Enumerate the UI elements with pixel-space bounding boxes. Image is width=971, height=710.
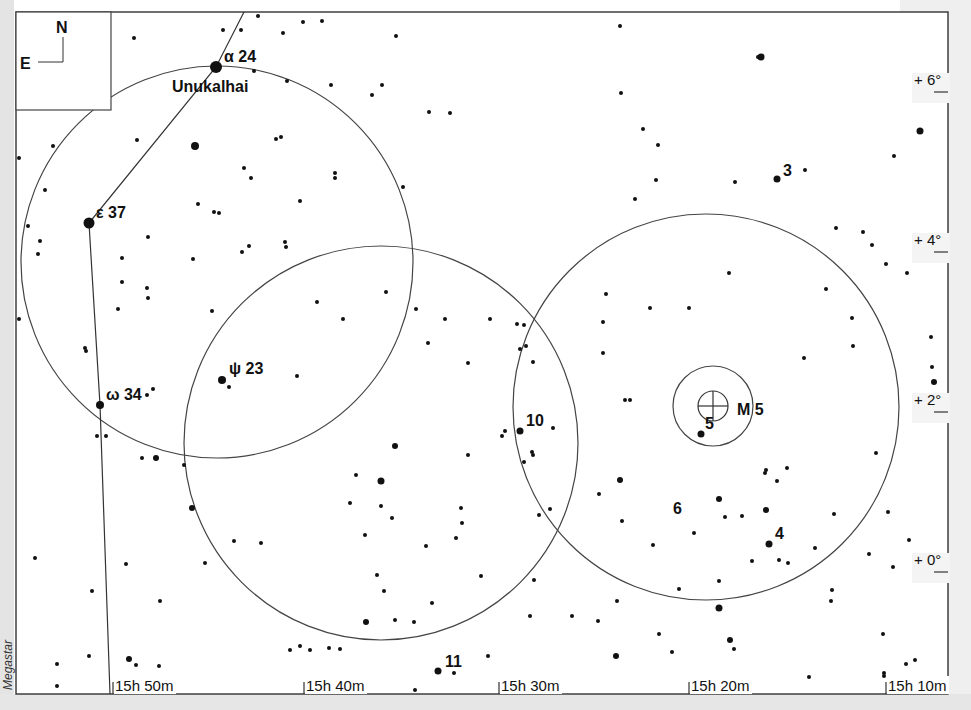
- star: [227, 385, 231, 389]
- bright-star: [917, 128, 924, 135]
- star: [466, 361, 470, 365]
- star: [651, 543, 655, 547]
- star: [830, 588, 834, 592]
- star: [151, 387, 155, 391]
- star: [279, 135, 283, 139]
- star: [256, 14, 260, 18]
- bright-star: [392, 443, 398, 449]
- star: [430, 601, 434, 605]
- star: [116, 307, 120, 311]
- compass-east: E: [20, 55, 31, 72]
- star: [83, 346, 87, 350]
- star: [95, 434, 99, 438]
- star: [320, 19, 324, 23]
- star: [26, 224, 30, 228]
- star: [140, 456, 144, 460]
- star: [413, 688, 417, 692]
- star: [252, 69, 256, 73]
- bright-star: [84, 218, 95, 229]
- star: [834, 226, 838, 230]
- bright-star: [517, 428, 524, 435]
- star-magnitude-label: 10: [526, 412, 544, 429]
- star: [338, 647, 342, 651]
- star: [570, 614, 574, 618]
- star: [134, 663, 138, 667]
- star: [212, 210, 216, 214]
- dec-tick-label: + 0°: [914, 551, 941, 568]
- bright-star: [153, 455, 159, 461]
- star: [740, 514, 744, 518]
- star: [628, 398, 632, 402]
- star: [288, 648, 292, 652]
- bright-star: [435, 668, 442, 675]
- star: [55, 662, 59, 666]
- star: [427, 110, 431, 114]
- ra-tick-label: 15h 50m: [115, 677, 173, 694]
- star: [503, 429, 507, 433]
- star: [727, 271, 731, 275]
- star: [443, 317, 447, 321]
- star: [452, 671, 456, 675]
- star: [803, 168, 807, 172]
- star: [393, 618, 397, 622]
- star: [756, 55, 760, 59]
- star: [687, 306, 691, 310]
- star: [249, 176, 253, 180]
- bright-star: [763, 507, 769, 513]
- star: [448, 111, 452, 115]
- star: [775, 479, 779, 483]
- star: [515, 322, 519, 326]
- star: [281, 31, 285, 35]
- star: [239, 28, 243, 32]
- star-magnitude-label: 5: [705, 415, 714, 432]
- bright-star: [218, 376, 226, 384]
- star-chart: M 5 α 24ε 37ω 34ψ 2331056411 N E Unukalh…: [0, 0, 971, 710]
- star: [191, 257, 195, 261]
- star: [466, 453, 470, 457]
- star: [874, 451, 878, 455]
- star: [232, 539, 236, 543]
- star: [329, 83, 333, 87]
- star: [824, 287, 828, 291]
- star: [479, 574, 483, 578]
- star: [633, 197, 637, 201]
- star: [363, 533, 367, 537]
- star: [850, 316, 854, 320]
- star: [522, 323, 526, 327]
- star: [412, 620, 416, 624]
- star: [670, 650, 674, 654]
- star: [892, 154, 896, 158]
- bright-star: [189, 505, 195, 511]
- dec-tick-label: + 4°: [914, 231, 941, 248]
- ra-tick-label: 15h 10m: [888, 677, 946, 694]
- star-designation-omega: ω 34: [106, 386, 142, 403]
- bright-star: [716, 496, 722, 502]
- star: [210, 309, 214, 313]
- dec-tick-label: + 2°: [914, 391, 941, 408]
- star: [424, 544, 428, 548]
- star: [528, 614, 532, 618]
- star: [120, 280, 124, 284]
- star: [648, 306, 652, 310]
- star: [426, 341, 430, 345]
- star-magnitude-label: 4: [775, 525, 784, 542]
- star: [90, 589, 94, 593]
- star: [274, 137, 278, 141]
- star: [242, 166, 246, 170]
- star: [284, 245, 288, 249]
- star: [380, 83, 384, 87]
- star: [295, 374, 299, 378]
- star: [158, 599, 162, 603]
- star: [861, 230, 865, 234]
- star: [327, 646, 331, 650]
- star: [537, 513, 541, 517]
- star: [913, 658, 917, 662]
- star: [146, 235, 150, 239]
- megastar-credit: Megastar: [1, 639, 15, 690]
- star: [301, 20, 305, 24]
- star: [601, 320, 605, 324]
- star: [692, 531, 696, 535]
- star: [333, 171, 337, 175]
- star: [247, 244, 251, 248]
- ra-tick-label: 15h 20m: [691, 677, 749, 694]
